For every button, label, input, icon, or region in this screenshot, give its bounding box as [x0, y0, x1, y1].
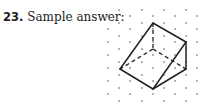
grid-dot — [163, 9, 165, 11]
grid-dot — [118, 22, 120, 24]
grid-dot — [141, 61, 143, 63]
grid-dot — [107, 41, 109, 43]
grid-dot — [152, 15, 154, 17]
grid-dot — [163, 100, 165, 102]
grid-dot — [129, 80, 131, 82]
grid-dot — [118, 35, 120, 37]
grid-dot — [174, 80, 176, 82]
isometric-prism-figure — [0, 0, 214, 105]
grid-dot — [118, 9, 120, 11]
edge-bottom-rightbottom — [153, 69, 186, 89]
hidden-edges — [120, 23, 186, 69]
grid-dot — [196, 15, 198, 17]
grid-dot — [174, 15, 176, 17]
grid-dot — [196, 93, 198, 95]
grid-dot — [174, 41, 176, 43]
hidden-edge-left — [120, 49, 153, 69]
grid-dot — [141, 22, 143, 24]
grid-dot — [118, 48, 120, 50]
grid-dot — [163, 22, 165, 24]
grid-dot — [152, 28, 154, 30]
grid-dot — [107, 28, 109, 30]
grid-dot — [196, 54, 198, 56]
grid-dot — [185, 9, 187, 11]
grid-dot — [118, 61, 120, 63]
grid-dot — [174, 54, 176, 56]
grid-dot — [107, 54, 109, 56]
grid-dot — [107, 93, 109, 95]
grid-dot — [129, 67, 131, 69]
grid-dot — [163, 61, 165, 63]
grid-dot — [163, 87, 165, 89]
grid-dot — [141, 74, 143, 76]
grid-dot — [152, 41, 154, 43]
grid-dot — [196, 28, 198, 30]
grid-dot — [118, 87, 120, 89]
grid-dot — [152, 93, 154, 95]
grid-dot — [107, 80, 109, 82]
grid-dot — [152, 80, 154, 82]
grid-dot — [196, 41, 198, 43]
grid-dot — [196, 80, 198, 82]
grid-dot — [185, 87, 187, 89]
grid-dot — [185, 74, 187, 76]
grid-dot — [118, 74, 120, 76]
grid-dot — [107, 67, 109, 69]
grid-dot — [196, 67, 198, 69]
grid-dot — [185, 35, 187, 37]
grid-dot — [129, 93, 131, 95]
grid-dot — [141, 48, 143, 50]
grid-dot — [129, 41, 131, 43]
grid-dot — [163, 35, 165, 37]
grid-dot — [185, 100, 187, 102]
grid-dot — [129, 15, 131, 17]
grid-dot — [152, 67, 154, 69]
grid-dot — [174, 28, 176, 30]
edge-righttop-bottom — [153, 42, 186, 89]
grid-dot — [129, 28, 131, 30]
grid-dot — [141, 9, 143, 11]
grid-dot — [107, 15, 109, 17]
edge-top-left — [120, 23, 153, 69]
grid-dot — [152, 54, 154, 56]
edge-top-righttop — [153, 23, 186, 42]
grid-dot — [118, 100, 120, 102]
grid-dot — [174, 67, 176, 69]
edge-left-bottom — [120, 69, 153, 89]
grid-dot — [163, 48, 165, 50]
grid-dot — [174, 93, 176, 95]
grid-dot — [141, 87, 143, 89]
grid-dot — [141, 100, 143, 102]
grid-dot — [185, 22, 187, 24]
